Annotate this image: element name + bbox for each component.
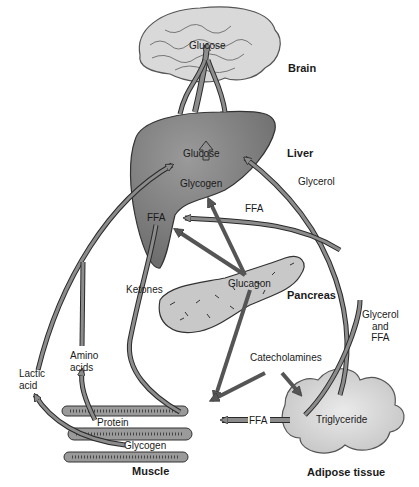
glucagon-label: Glucagon bbox=[228, 278, 271, 290]
catecholamines-label: Catecholamines bbox=[250, 352, 322, 364]
muscle-protein-label: Protein bbox=[97, 417, 129, 429]
ffa-to-muscle-label: FFA bbox=[249, 415, 267, 427]
pancreas-title: Pancreas bbox=[287, 289, 336, 302]
liver-ffa-label: FFA bbox=[147, 212, 165, 224]
ffa-to-liver-label: FFA bbox=[245, 203, 263, 215]
liver-title: Liver bbox=[287, 147, 313, 160]
liver-glucose-label: Glucose bbox=[183, 148, 220, 160]
lactic-acid-label: Lactic acid bbox=[19, 368, 45, 391]
triglyceride-label: Triglyceride bbox=[316, 414, 367, 426]
adipose-title: Adipose tissue bbox=[307, 466, 385, 479]
liver-glycogen-label: Glycogen bbox=[180, 178, 222, 190]
ketones-label: Ketones bbox=[126, 284, 163, 296]
glycerol-flow-label: Glycerol bbox=[298, 176, 335, 188]
amino-acids-label: Amino acids bbox=[70, 350, 98, 373]
muscle-glycogen-label: Glycogen bbox=[124, 440, 166, 452]
metabolism-diagram: Glucose Brain Glucose Glycogen FFA Liver… bbox=[0, 0, 419, 487]
muscle-title: Muscle bbox=[132, 465, 169, 478]
glycerol-and-ffa-label: Glycerol and FFA bbox=[362, 309, 399, 344]
brain-glucose-label: Glucose bbox=[189, 40, 226, 52]
brain-title: Brain bbox=[288, 62, 316, 75]
